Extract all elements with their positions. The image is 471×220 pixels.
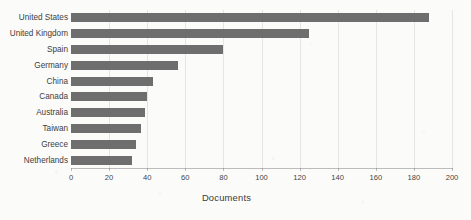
category-label: Australia — [0, 109, 68, 117]
x-axis-ticks: 020406080100120140160180200 — [71, 168, 453, 184]
x-axis-tick-label: 160 — [369, 173, 382, 182]
x-axis-tick-label: 180 — [408, 173, 421, 182]
category-label: Taiwan — [0, 125, 68, 133]
category-label: Canada — [0, 93, 68, 101]
bar[interactable] — [71, 77, 153, 86]
x-axis-tick-label: 0 — [69, 173, 73, 182]
category-label: Netherlands — [0, 157, 68, 165]
bar[interactable] — [71, 61, 178, 70]
x-axis-tick-label: 120 — [293, 173, 306, 182]
x-axis-tick — [300, 168, 301, 171]
x-axis-title-text: Documents — [202, 192, 251, 203]
bar[interactable] — [71, 13, 429, 22]
category-label: Spain — [0, 46, 68, 54]
plot-area — [71, 10, 452, 168]
x-axis-tick-label: 60 — [181, 173, 189, 182]
x-axis-tick-label: 80 — [219, 173, 227, 182]
horizontal-bar-chart: United StatesUnited KingdomSpainGermanyC… — [0, 0, 471, 220]
x-axis-tick — [185, 168, 186, 171]
x-axis-tick — [109, 168, 110, 171]
x-axis-tick — [338, 168, 339, 171]
gridline — [452, 10, 453, 168]
category-label: United States — [0, 14, 68, 22]
x-axis-tick — [414, 168, 415, 171]
gridline — [338, 10, 339, 168]
category-label: Germany — [0, 62, 68, 70]
x-axis-tick — [147, 168, 148, 171]
x-axis-tick — [262, 168, 263, 171]
category-label: China — [0, 78, 68, 86]
bar[interactable] — [71, 45, 223, 54]
x-axis-tick-label: 100 — [255, 173, 268, 182]
x-axis-title: Documents — [0, 192, 471, 203]
x-axis-tick — [376, 168, 377, 171]
bar[interactable] — [71, 156, 132, 165]
bar[interactable] — [71, 140, 136, 149]
x-axis-tick — [71, 168, 72, 171]
category-label: Greece — [0, 141, 68, 149]
gridline — [414, 10, 415, 168]
x-axis-tick-label: 20 — [105, 173, 113, 182]
bar[interactable] — [71, 124, 141, 133]
x-axis-tick-label: 200 — [446, 173, 459, 182]
bar[interactable] — [71, 29, 309, 38]
bar[interactable] — [71, 108, 145, 117]
category-axis-labels: United StatesUnited KingdomSpainGermanyC… — [0, 0, 68, 220]
bar[interactable] — [71, 92, 147, 101]
x-axis-tick-label: 140 — [331, 173, 344, 182]
x-axis-tick-label: 40 — [143, 173, 151, 182]
gridline — [376, 10, 377, 168]
x-axis-tick — [452, 168, 453, 171]
x-axis-tick — [223, 168, 224, 171]
category-label: United Kingdom — [0, 30, 68, 38]
